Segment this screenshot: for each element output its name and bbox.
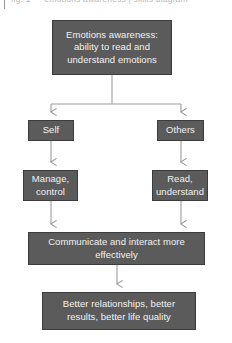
node-communicate-interact-line-1: Communicate and interact more [48, 236, 185, 249]
node-read-understand-line-1: Read, [156, 173, 204, 186]
node-emotions-awareness: Emotions awareness: ability to read and … [52, 20, 172, 75]
node-better-relationships-line-1: Better relationships, better [63, 298, 175, 311]
node-others-label: Others [166, 124, 195, 137]
node-self-label: Self [43, 124, 60, 137]
node-communicate-interact: Communicate and interact more effectivel… [28, 232, 205, 265]
node-manage-control: Manage, control [23, 170, 78, 201]
clipped-caption-text: fig. 1 — emotions awareness | skills dia… [0, 0, 232, 5]
node-manage-control-line-1: Manage, [32, 173, 69, 186]
diagram-canvas: fig. 1 — emotions awareness | skills dia… [0, 0, 232, 343]
node-manage-control-line-2: control [32, 186, 69, 199]
node-read-understand-line-2: understand [156, 186, 204, 199]
node-better-relationships-line-2: results, better life quality [63, 311, 175, 324]
node-emotions-awareness-line-3: understand emotions [66, 54, 158, 67]
node-read-understand: Read, understand [152, 170, 208, 201]
node-emotions-awareness-line-1: Emotions awareness: [66, 29, 158, 42]
node-others: Others [157, 120, 204, 141]
node-emotions-awareness-line-2: ability to read and [66, 41, 158, 54]
node-self: Self [28, 120, 74, 141]
node-communicate-interact-line-2: effectively [48, 249, 185, 262]
node-better-relationships: Better relationships, better results, be… [42, 292, 196, 330]
